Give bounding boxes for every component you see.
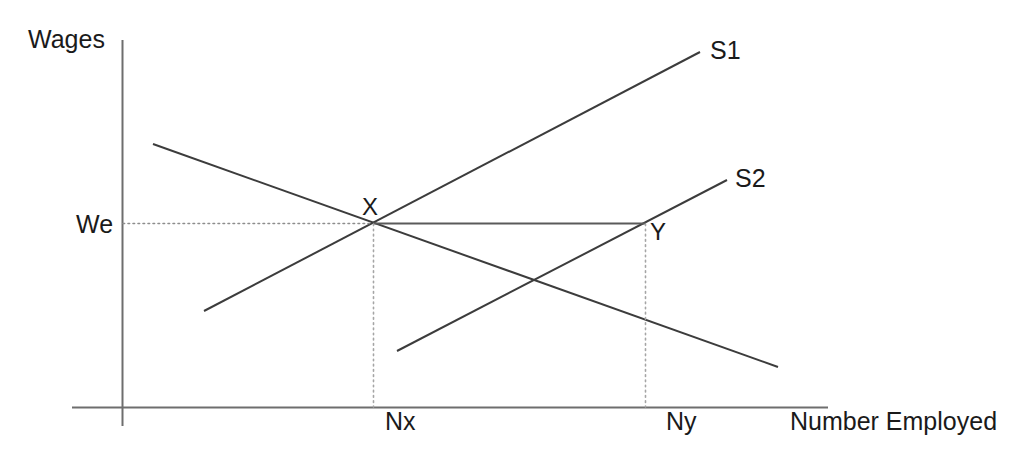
y-axis-label: Wages	[28, 27, 105, 52]
wage-equilibrium-label: We	[76, 212, 113, 237]
employment-nx-label: Nx	[385, 409, 416, 434]
x-axis-label: Number Employed	[790, 409, 997, 434]
supply-curve-s1-label: S1	[710, 38, 741, 63]
point-y-label: Y	[650, 220, 666, 244]
diagram-canvas	[0, 0, 1029, 460]
supply-curve-s1	[204, 52, 700, 311]
economics-diagram: Wages Number Employed We Nx Ny X Y S1 S2	[0, 0, 1029, 460]
employment-ny-label: Ny	[666, 409, 697, 434]
labour-demand-curve	[153, 144, 778, 367]
supply-curve-s2	[397, 180, 727, 351]
supply-curve-s2-label: S2	[735, 166, 766, 191]
point-x-label: X	[362, 195, 378, 219]
